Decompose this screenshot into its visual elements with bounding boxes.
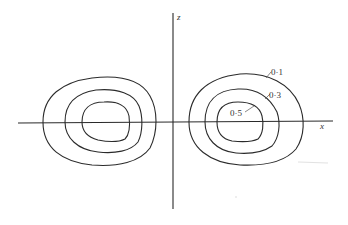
right-contour-outer <box>189 74 303 165</box>
label-level-0-1: 0·1 <box>271 67 283 77</box>
scan-smudge <box>298 162 328 163</box>
contour-diagram: 0·1 0·3 0·5 x z <box>0 0 348 225</box>
z-axis-label: z <box>176 12 181 22</box>
scan-speck <box>235 196 236 197</box>
label-level-0-3: 0·3 <box>269 90 281 100</box>
left-lobe <box>43 77 156 165</box>
right-lobe <box>189 74 303 165</box>
leader-0-5 <box>245 106 254 112</box>
label-level-0-5: 0·5 <box>230 108 242 118</box>
diagram-svg: 0·1 0·3 0·5 x z <box>0 0 348 225</box>
x-axis-label: x <box>319 121 324 131</box>
left-contour-inner <box>82 102 130 142</box>
left-contour-middle <box>65 90 142 153</box>
